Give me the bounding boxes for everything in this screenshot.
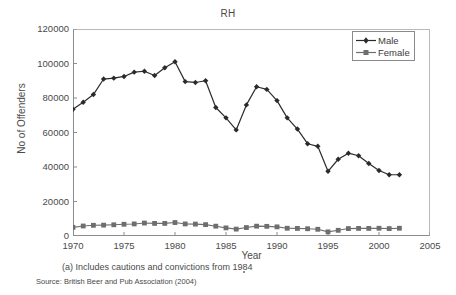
data-point bbox=[152, 221, 157, 226]
data-point bbox=[213, 224, 218, 229]
x-tick-label: 1995 bbox=[306, 240, 350, 251]
data-point bbox=[377, 226, 382, 231]
data-point bbox=[172, 59, 177, 64]
data-point bbox=[132, 222, 137, 227]
data-point bbox=[193, 80, 198, 85]
data-point bbox=[244, 225, 249, 230]
data-point bbox=[193, 222, 198, 227]
data-point bbox=[305, 226, 310, 231]
data-point bbox=[254, 84, 259, 89]
data-point bbox=[315, 227, 320, 232]
legend-label-male: Male bbox=[377, 35, 399, 46]
stray-mark bbox=[243, 271, 245, 273]
data-point bbox=[336, 228, 341, 233]
x-tick-label: 1990 bbox=[255, 240, 299, 251]
data-point bbox=[121, 74, 126, 79]
data-point bbox=[162, 221, 167, 226]
data-point bbox=[132, 69, 137, 74]
data-point bbox=[387, 226, 392, 231]
data-point bbox=[91, 223, 96, 228]
data-point bbox=[285, 226, 290, 231]
y-axis-title: No of Offenders bbox=[16, 69, 27, 169]
data-point bbox=[203, 78, 208, 83]
data-point bbox=[111, 75, 116, 80]
legend-item-female: Female bbox=[355, 46, 410, 58]
data-point bbox=[387, 172, 392, 177]
data-point bbox=[142, 221, 147, 226]
data-point bbox=[203, 222, 208, 227]
y-tick-label: 20000 bbox=[3, 196, 69, 207]
data-point bbox=[244, 102, 249, 107]
chart-source-note: Source: British Beer and Pub Association… bbox=[36, 277, 197, 286]
data-point bbox=[142, 69, 147, 74]
data-point bbox=[264, 224, 269, 229]
data-point bbox=[397, 226, 402, 231]
chart-figure: RH 020000400006000080000100000120000 No … bbox=[0, 0, 456, 295]
data-point bbox=[254, 224, 259, 229]
x-tick-label: 2000 bbox=[357, 240, 401, 251]
x-tick-label: 1980 bbox=[153, 240, 197, 251]
data-point bbox=[73, 225, 75, 230]
data-point bbox=[183, 79, 188, 84]
series-male bbox=[73, 59, 402, 177]
data-point bbox=[101, 223, 106, 228]
y-tick-label: 60000 bbox=[3, 127, 69, 138]
data-point bbox=[356, 226, 361, 231]
data-point bbox=[183, 222, 188, 227]
legend-item-male: Male bbox=[355, 34, 410, 46]
data-point bbox=[234, 227, 239, 232]
x-tick-label: 2005 bbox=[408, 240, 452, 251]
data-point bbox=[397, 172, 402, 177]
y-tick-label: 120000 bbox=[3, 23, 69, 34]
x-tick-label: 1970 bbox=[51, 240, 95, 251]
square-marker-icon bbox=[355, 47, 377, 58]
legend-label-female: Female bbox=[377, 47, 410, 58]
y-tick-label: 40000 bbox=[3, 161, 69, 172]
data-point bbox=[346, 151, 351, 156]
x-tick-label: 1975 bbox=[102, 240, 146, 251]
data-point bbox=[173, 220, 178, 225]
data-point bbox=[122, 222, 127, 227]
data-point bbox=[111, 222, 116, 227]
data-point bbox=[346, 226, 351, 231]
y-tick-label: 100000 bbox=[3, 58, 69, 69]
chart-legend: Male Female bbox=[352, 31, 415, 61]
diamond-marker-icon bbox=[355, 35, 377, 46]
data-point bbox=[275, 224, 280, 229]
data-point bbox=[315, 144, 320, 149]
data-point bbox=[366, 226, 371, 231]
data-point bbox=[224, 225, 229, 230]
series-female bbox=[73, 220, 402, 234]
data-point bbox=[326, 229, 331, 234]
x-axis-title: Year bbox=[73, 250, 430, 261]
chart-footnote: (a) Includes cautions and convictions fr… bbox=[62, 262, 253, 272]
data-point bbox=[295, 226, 300, 231]
y-tick-label: 80000 bbox=[3, 92, 69, 103]
data-point bbox=[81, 224, 86, 229]
x-tick-label: 1985 bbox=[204, 240, 248, 251]
